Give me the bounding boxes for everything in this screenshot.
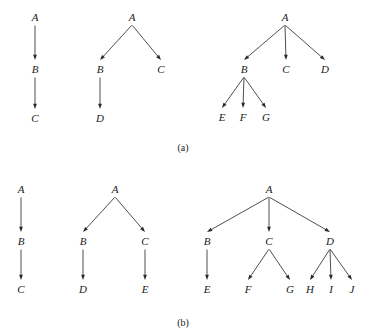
tree-a-tree-1: ABC: [31, 11, 40, 124]
tree-a-tree-2: ABCD: [95, 11, 165, 124]
tree-node-d: D: [325, 235, 334, 247]
tree-edge-c-to-g: [269, 249, 290, 280]
tree-node-e: E: [218, 111, 226, 123]
tree-edges: [98, 25, 161, 109]
tree-edge-d-to-i: [329, 250, 333, 281]
tree-edge-a-to-b: [19, 198, 23, 233]
tree-b-tree-3: ABCDEFGHIJ: [203, 183, 356, 295]
tree-edge-d-to-j: [330, 249, 352, 280]
tree-node-c: C: [141, 235, 149, 247]
tree-edge-c-to-e: [143, 250, 147, 281]
tree-node-c: C: [157, 63, 165, 75]
tree-edge-a-to-c: [284, 26, 288, 61]
tree-edges: [222, 25, 325, 108]
tree-node-b: B: [80, 235, 87, 247]
tree-node-b: B: [32, 63, 39, 75]
tree-edge-a-to-c: [132, 25, 161, 60]
tree-node-a: A: [17, 183, 25, 195]
tree-node-c: C: [282, 63, 290, 75]
tree-nodes: ABCDEFG: [218, 11, 329, 123]
tree-edge-b-to-c: [33, 78, 37, 110]
tree-edge-b-to-c: [19, 250, 23, 281]
tree-node-d: D: [78, 283, 87, 295]
tree-node-e: E: [141, 283, 149, 295]
tree-node-b: B: [18, 235, 25, 247]
tree-node-b: B: [241, 63, 248, 75]
tree-node-j: J: [350, 283, 356, 295]
tree-b-tree-1: ABC: [17, 183, 26, 295]
tree-edge-b-to-f: [241, 78, 245, 109]
panel-b: ABCABCDEABCDEFGHIJ(b): [17, 183, 356, 329]
tree-edge-a-to-d: [285, 25, 325, 60]
tree-edge-b-to-d: [98, 78, 102, 110]
panel-a: ABCABCDABCDEFG(a): [31, 11, 329, 154]
tree-node-b: B: [97, 63, 104, 75]
tree-node-c: C: [17, 283, 25, 295]
tree-edge-a-to-c: [115, 197, 145, 232]
tree-node-c: C: [265, 235, 273, 247]
tree-edge-c-to-f: [248, 249, 269, 280]
tree-node-f: F: [239, 111, 247, 123]
tree-edge-d-to-h: [310, 249, 330, 280]
tree-edge-a-to-b: [207, 197, 269, 232]
tree-edge-a-to-c: [267, 198, 271, 233]
panel-b-caption: (b): [177, 317, 189, 329]
tree-node-d: D: [320, 63, 329, 75]
tree-edge-a-to-b: [244, 25, 285, 60]
tree-edge-b-to-d: [81, 250, 85, 281]
tree-edge-b-to-e: [205, 250, 209, 281]
tree-edge-b-to-g: [244, 77, 266, 108]
tree-nodes: ABCDEFGHIJ: [203, 183, 356, 295]
tree-node-a: A: [111, 183, 119, 195]
tree-node-a: A: [265, 183, 273, 195]
tree-edges: [81, 197, 147, 280]
tree-node-c: C: [31, 112, 39, 124]
tree-node-f: F: [244, 283, 252, 295]
tree-diagram-figure: ABCABCDABCDEFG(a)ABCABCDEABCDEFGHIJ(b): [0, 0, 367, 336]
panel-a-caption: (a): [177, 142, 188, 154]
tree-edge-a-to-b: [83, 197, 115, 232]
figure-root: ABCABCDABCDEFG(a)ABCABCDEABCDEFGHIJ(b): [17, 11, 356, 329]
tree-nodes: ABCDE: [78, 183, 149, 295]
tree-node-a: A: [281, 11, 289, 23]
tree-nodes: ABCD: [95, 11, 165, 124]
tree-node-i: I: [328, 283, 334, 295]
tree-a-tree-3: ABCDEFG: [218, 11, 329, 123]
tree-node-a: A: [128, 11, 136, 23]
tree-node-b: B: [204, 235, 211, 247]
tree-edge-a-to-d: [269, 197, 330, 232]
tree-edge-a-to-b: [100, 25, 132, 60]
tree-b-tree-2: ABCDE: [78, 183, 149, 295]
tree-edge-a-to-b: [33, 26, 37, 61]
tree-node-e: E: [203, 283, 211, 295]
tree-node-d: D: [95, 112, 104, 124]
tree-node-g: G: [262, 111, 270, 123]
tree-node-a: A: [31, 11, 39, 23]
tree-edge-b-to-e: [222, 77, 244, 108]
tree-node-h: H: [305, 283, 315, 295]
tree-node-g: G: [286, 283, 294, 295]
